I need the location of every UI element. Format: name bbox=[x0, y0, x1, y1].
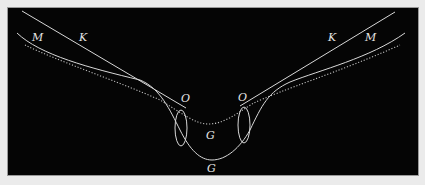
label-k-left: K bbox=[79, 32, 87, 43]
k-line-left bbox=[22, 11, 186, 108]
label-o-right: O bbox=[238, 92, 247, 103]
label-g-upper: G bbox=[206, 130, 215, 141]
k-line-right bbox=[240, 12, 395, 106]
label-o-left: O bbox=[181, 93, 190, 104]
label-m-left: M bbox=[32, 32, 43, 43]
label-g-lower: G bbox=[207, 163, 216, 174]
ellipse-left bbox=[175, 110, 187, 146]
label-k-right: K bbox=[328, 32, 336, 43]
diagram-canvas bbox=[0, 0, 425, 185]
label-m-right: M bbox=[365, 32, 376, 43]
dotted-curve bbox=[25, 45, 400, 124]
